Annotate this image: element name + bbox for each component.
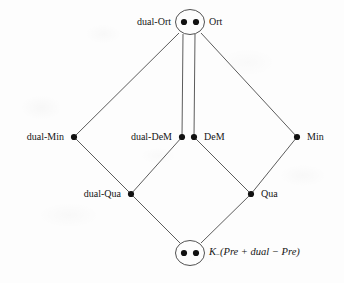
lattice-diagram-figure: dual-Ort Ort dual-Min dual-DeM DeM Min d… bbox=[0, 0, 344, 283]
edge-top-to-dem-right bbox=[194, 34, 195, 137]
node-bottom-dot-right bbox=[193, 250, 199, 256]
node-min-dot bbox=[294, 134, 300, 140]
edge-qua-to-bottom bbox=[201, 194, 251, 243]
node-group bbox=[71, 10, 300, 266]
edge-top-to-dual-min bbox=[74, 33, 179, 137]
node-bottom-dot-left bbox=[181, 250, 187, 256]
node-label-dual-dem: dual-DeM bbox=[131, 132, 172, 142]
edge-dem-to-qua bbox=[194, 137, 251, 194]
node-label-dual-min: dual-Min bbox=[27, 132, 64, 142]
edge-dual-min-to-dual-qua bbox=[74, 137, 131, 194]
node-label-bottom-formula: K−(Pre + dual − Pre) bbox=[209, 247, 300, 259]
formula-k-symbol: K bbox=[209, 246, 216, 257]
node-label-dual-ort: dual-Ort bbox=[137, 17, 171, 27]
node-bottom-circle bbox=[176, 241, 205, 266]
edge-min-to-qua bbox=[251, 137, 297, 194]
edge-group bbox=[74, 33, 297, 243]
edge-top-to-dem-left bbox=[182, 34, 183, 137]
node-dual-qua-dot bbox=[128, 191, 134, 197]
node-top-dot-right bbox=[193, 19, 199, 25]
node-top-circle bbox=[176, 10, 205, 35]
node-label-dual-qua: dual-Qua bbox=[84, 189, 121, 199]
node-top-dot-left bbox=[181, 19, 187, 25]
node-label-dem: DeM bbox=[204, 132, 225, 142]
edge-dem-to-dual-qua bbox=[131, 137, 182, 194]
node-dem-dot bbox=[191, 134, 197, 140]
formula-expression: (Pre + dual − Pre) bbox=[220, 246, 300, 257]
node-qua-dot bbox=[248, 191, 254, 197]
node-label-qua: Qua bbox=[261, 189, 278, 199]
node-dual-dem-dot bbox=[179, 134, 185, 140]
node-label-min: Min bbox=[307, 132, 324, 142]
edge-top-to-min bbox=[201, 33, 297, 137]
node-label-ort: Ort bbox=[209, 17, 222, 27]
node-dual-min-dot bbox=[71, 134, 77, 140]
edge-dual-qua-to-bottom bbox=[131, 194, 180, 243]
